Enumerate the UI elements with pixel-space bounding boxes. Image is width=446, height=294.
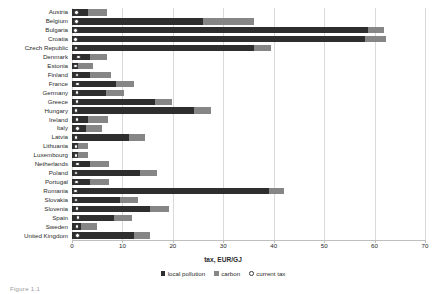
category-label: Ireland [49,116,68,122]
stacked-bar [72,143,425,149]
marker-current-tax [73,37,78,42]
bar-segment-carbon [106,90,124,96]
category-label: Netherlands [35,161,68,167]
bar-row: Portugal [72,178,425,187]
bar-segment-carbon [269,188,284,194]
bar-segment-local-pollution [72,170,140,176]
bar-row: Finland [72,70,425,79]
bar-segment-local-pollution [72,99,155,105]
bar-segment-local-pollution [72,45,254,51]
marker-current-tax [74,144,79,149]
x-tick-label: 30 [220,243,227,249]
stacked-bar [72,223,425,229]
bar-row: Denmark [72,53,425,62]
bar-row: Belgium [72,17,425,26]
x-tick-label: 40 [270,243,277,249]
stacked-bar [72,99,425,105]
bar-segment-carbon [116,81,134,87]
stacked-bar [72,54,425,60]
bar-row: Spain [72,213,425,222]
legend-label: carbon [221,270,240,277]
stacked-bar [72,170,425,176]
legend-item: carbon [214,270,240,277]
stacked-bar [72,206,425,212]
bar-segment-local-pollution [72,134,129,140]
bar-segment-carbon [78,143,88,149]
bar-row: Greece [72,97,425,106]
bar-row: Czech Republic [72,44,425,53]
bar-segment-carbon [90,161,109,167]
marker-current-tax [75,126,80,131]
marker-current-tax [74,10,79,15]
figure-caption: Figure 1.1 [10,286,40,292]
bar-row: Poland [72,169,425,178]
stacked-bar [72,197,425,203]
stacked-bar [72,81,425,87]
legend-swatch-carbon-icon [214,271,219,276]
category-label: France [49,81,68,87]
category-label: Sweden [46,223,68,229]
stacked-bar [72,45,425,51]
chart-container: AustriaBelgiumBulgariaCroatiaCzech Repub… [0,0,446,294]
bar-segment-carbon [88,9,107,15]
bar-row: Croatia [72,35,425,44]
bar-row: Romania [72,186,425,195]
bar-row: Slovenia [72,204,425,213]
marker-current-tax [73,28,78,33]
marker-current-tax [74,153,79,158]
marker-current-tax [75,82,80,87]
bar-row: Slovakia [72,195,425,204]
stacked-bar [72,63,425,69]
marker-current-tax [75,233,80,238]
category-label: Austria [49,9,68,15]
stacked-bar [72,72,425,78]
bar-segment-carbon [86,125,102,131]
bar-segment-carbon [78,152,88,158]
stacked-bar [72,188,425,194]
bar-segment-carbon [134,232,150,238]
stacked-bar [72,152,425,158]
bar-segment-local-pollution [72,197,120,203]
category-label: Portugal [45,179,68,185]
stacked-bar [72,125,425,131]
bar-segment-local-pollution [72,107,194,113]
x-axis-line [72,240,426,241]
bar-segment-local-pollution [72,27,368,33]
x-tick-label: 60 [371,243,378,249]
stacked-bar [72,36,425,42]
bar-segment-local-pollution [72,188,269,194]
legend-item: current tax [249,270,285,277]
category-label: Czech Republic [25,45,68,51]
x-tick-label: 0 [70,243,73,249]
bar-row: Bulgaria [72,26,425,35]
bar-row: Estonia [72,62,425,71]
x-tick-label: 70 [422,243,429,249]
marker-current-tax [74,19,79,24]
bar-segment-carbon [90,54,107,60]
bar-segment-carbon [140,170,157,176]
bar-segment-carbon [150,206,169,212]
legend-swatch-current-icon [249,271,254,276]
bar-segment-carbon [203,18,254,24]
category-label: Luxembourg [34,152,68,158]
legend-swatch-local-icon [161,271,166,276]
bar-row: Luxembourg [72,151,425,160]
category-label: Greece [48,99,68,105]
category-label: Romania [43,188,68,194]
bar-row: Hungary [72,106,425,115]
stacked-bar [72,134,425,140]
bar-segment-carbon [90,72,111,78]
bar-rows: AustriaBelgiumBulgariaCroatiaCzech Repub… [72,8,425,240]
gridline-70 [425,8,426,240]
bar-segment-local-pollution [72,18,203,24]
category-label: Lithuania [43,143,68,149]
bar-segment-carbon [114,215,132,221]
legend-label: current tax [256,270,285,277]
legend-label: local pollution [168,270,206,277]
marker-current-tax [73,189,78,194]
chart-legend: local pollutioncarboncurrent tax [0,270,446,277]
category-label: Spain [52,215,68,221]
bar-segment-carbon [90,179,109,185]
stacked-bar [72,18,425,24]
bar-row: Lithuania [72,142,425,151]
